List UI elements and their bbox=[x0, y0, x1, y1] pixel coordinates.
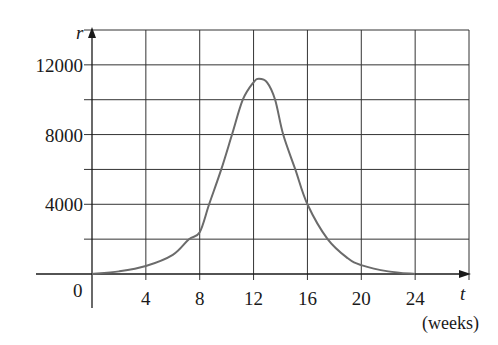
chart: 4812162024 4000800012000 r t (weeks) 0 bbox=[0, 0, 498, 345]
origin-label: 0 bbox=[73, 280, 83, 301]
y-axis-label: r bbox=[76, 22, 84, 43]
x-tick-label: 4 bbox=[141, 288, 151, 309]
y-tick-label: 4000 bbox=[45, 194, 83, 215]
x-tick-label: 24 bbox=[406, 288, 426, 309]
y-axis-arrow-icon bbox=[88, 27, 96, 38]
y-tick-label: 12000 bbox=[36, 55, 84, 76]
x-tick-label: 20 bbox=[352, 288, 371, 309]
x-tick-label: 16 bbox=[298, 288, 317, 309]
y-tick-labels: 4000800012000 bbox=[36, 55, 84, 215]
y-tick-label: 8000 bbox=[45, 125, 83, 146]
x-axis-label: t bbox=[460, 283, 466, 304]
x-tick-labels: 4812162024 bbox=[141, 288, 425, 309]
line-chart: 4812162024 4000800012000 r t (weeks) 0 bbox=[0, 0, 498, 345]
grid-lines bbox=[84, 30, 469, 280]
x-axis-unit: (weeks) bbox=[422, 313, 479, 334]
x-tick-label: 12 bbox=[244, 288, 263, 309]
x-tick-label: 8 bbox=[195, 288, 205, 309]
